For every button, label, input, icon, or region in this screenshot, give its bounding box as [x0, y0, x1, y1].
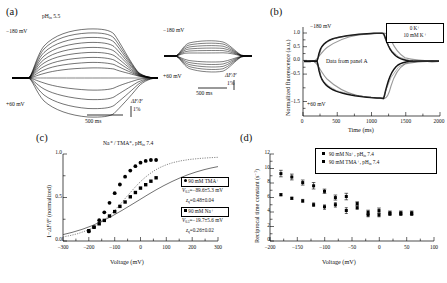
- panel-a-voltage-bottom: +60 mV: [6, 101, 25, 107]
- panel-a-scalebar-amp-symbol: ΔF/F: [131, 98, 143, 104]
- panel-c-legend-1-box: 90 mM TMA⁺: [181, 177, 229, 187]
- panel-c-xaxis-label: Voltage (mV): [110, 258, 144, 265]
- panel-d-yaxis-label: Reciprocal time constant (s−1): [253, 169, 260, 243]
- panel-a-inset-scalebar-amp-symbol: ΔF/F: [225, 72, 237, 78]
- panel-a-inset-plot: [163, 38, 253, 74]
- panel-d-xtick-5: 0: [371, 244, 387, 250]
- panel-c-legend-1-zq: zq=0.48±0.04: [186, 198, 214, 204]
- panel-b-legend-item-1: 0 K⁺: [387, 24, 443, 32]
- panel-c-yaxis-label: 1−ΔF/F (normalized): [45, 185, 52, 238]
- panel-d-letter: (d): [240, 132, 252, 143]
- panel-b-legend-item-2: 10 mM K⁺: [387, 32, 443, 39]
- panel-c-xtick-7: 300: [210, 244, 226, 250]
- panel-a-voltage-top: −180 mV: [6, 28, 27, 34]
- panel-a-inset-voltage-top: −180 mV: [163, 27, 184, 33]
- panel-c-xtick-1: −300: [53, 244, 73, 250]
- panel-c-legend-2-marker: [184, 209, 187, 212]
- panel-d-xtick-7: 100: [426, 244, 442, 250]
- panel-d-legend-item-2: 90 mM TMA⁺, pHin 7.4: [316, 157, 436, 166]
- panel-c-legend-1-marker: [184, 179, 187, 182]
- panel-a-ph-label: pHin 5.5: [42, 13, 60, 20]
- panel-b-xtick-4: 1500: [398, 118, 414, 124]
- panel-d-legend-2-marker: [322, 160, 325, 163]
- panel-a-inset-scalebar-time-label: 500 ms: [196, 90, 212, 96]
- panel-d-xtick-2: −150: [287, 244, 307, 250]
- panel-d-legend-1-marker: [322, 152, 325, 155]
- panel-c-legend-1-vhalf: V0.5=−89.6±5.3 mV: [182, 188, 223, 194]
- panel-b-annotation-center: Data from panel A: [326, 58, 367, 64]
- panel-b-annotation-top: −180 mV: [310, 23, 331, 29]
- panel-b-xaxis-label: Time (ms): [348, 126, 374, 133]
- panel-d-xtick-6: 50: [399, 244, 415, 250]
- panel-b-ytick-1: 1.0: [288, 29, 300, 35]
- panel-d-xaxis-label: Voltage (mV): [322, 258, 356, 265]
- panel-c-xtick-3: −100: [105, 244, 125, 250]
- panel-d-xtick-1: −200: [260, 244, 280, 250]
- panel-a-inset-traces: [163, 38, 253, 74]
- panel-c-xtick-4: 0: [133, 244, 149, 250]
- panel-b-xtick-2: 500: [329, 118, 343, 124]
- panel-c-legend-2-label: 90 mM Na⁺: [188, 208, 213, 214]
- panel-b-letter: (b): [270, 6, 282, 17]
- figure-root: (a) pHin 5.5: [0, 0, 447, 283]
- panel-c-legend-1-label: 90 mM TMA⁺: [188, 178, 219, 184]
- panel-d-xtick-3: −100: [315, 244, 335, 250]
- panel-a-scalebar-amp-value: 1%: [133, 106, 140, 112]
- panel-c-legend-2-zq: zq=0.26±0.02: [186, 228, 214, 234]
- panel-b-annotation-bottom: +60 mV: [307, 101, 326, 107]
- panel-c-xtick-5: 100: [158, 244, 174, 250]
- panel-a-inset-voltage-bottom: +60 mV: [163, 73, 182, 79]
- panel-c-letter: (c): [36, 132, 48, 143]
- panel-c-ytick-1: 1.0: [50, 149, 62, 155]
- panel-c-xtick-2: −200: [79, 244, 99, 250]
- panel-d-legend: 90 mM Na⁺, pHin 7.4 90 mM TMA⁺, pHin 7.4: [315, 148, 437, 174]
- panel-b-yaxis-label: Normalized fluorescence (a.u.): [284, 39, 291, 116]
- panel-d-legend-item-1: 90 mM Na⁺, pHin 7.4: [316, 149, 436, 157]
- panel-b-legend: 0 K⁺ 10 mM K⁺: [386, 23, 444, 43]
- panel-a-inset-scalebar-amp-value: 1%: [227, 80, 234, 86]
- panel-d-ytick-1: 12: [258, 149, 270, 155]
- panel-b-xtick-3: 1000: [364, 118, 380, 124]
- panel-b-xtick-5: 2000: [431, 118, 447, 124]
- panel-c-legend-2-vhalf: V0.5=−19.7±5.6 mV: [182, 218, 223, 224]
- panel-c-xtick-6: 200: [184, 244, 200, 250]
- panel-a-scalebar-time-label: 500 ms: [85, 118, 101, 124]
- panel-c-legend-2-box: 90 mM Na⁺: [181, 207, 229, 217]
- panel-b-xtick-1: 0: [295, 118, 309, 124]
- panel-d-xtick-4: −50: [343, 244, 361, 250]
